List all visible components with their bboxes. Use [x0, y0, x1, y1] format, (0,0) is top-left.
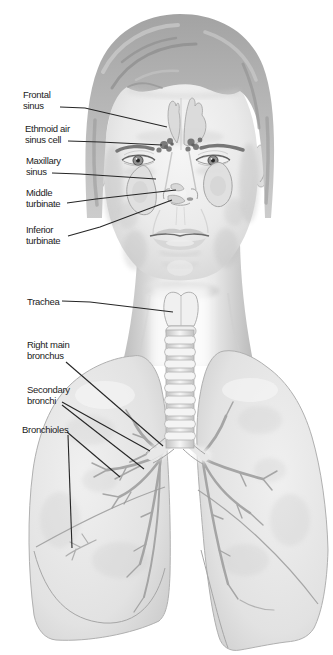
trachea-tube: [165, 330, 196, 448]
label-ethmoid-air-sinus-cell: Ethmoid air sinus cell: [25, 123, 70, 145]
chin-highlight: [167, 260, 193, 276]
label-middle-turbinate: Middle turbinate: [26, 187, 60, 209]
label-right-main-bronchus: Right main bronchus: [27, 339, 69, 361]
larynx: [164, 292, 198, 336]
trachea-rings: [165, 336, 196, 440]
label-bronchioles: Bronchioles: [22, 424, 68, 435]
figure: Frontal sinus Ethmoid air sinus cell Max…: [0, 0, 333, 655]
label-secondary-bronchi: Secondary bronchi: [27, 384, 70, 406]
label-maxillary-sinus: Maxillary sinus: [26, 155, 61, 177]
label-frontal-sinus: Frontal sinus: [23, 89, 50, 111]
label-inferior-turbinate: Inferior turbinate: [26, 224, 60, 246]
label-trachea: Trachea: [27, 296, 59, 307]
